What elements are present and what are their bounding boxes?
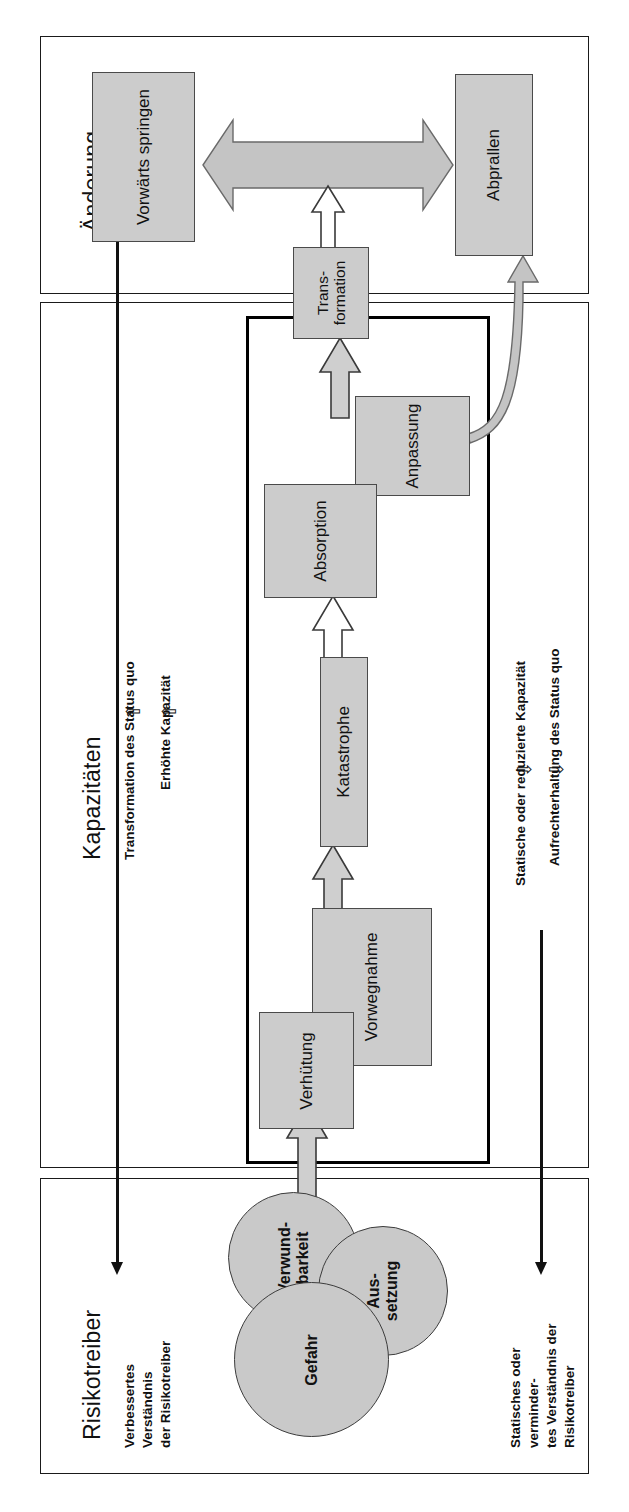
node-label-katastrophe: Katastrophe [334, 706, 353, 798]
label-statisches-verstaendnis-line2: verminder- [526, 1378, 542, 1448]
circle-label-verwundbarkeit-line2: barkeit [294, 1231, 311, 1283]
node-transformation[interactable]: Trans- formation [293, 247, 369, 339]
node-label-transformation-line1: Trans- [314, 271, 331, 315]
node-verhuetung[interactable]: Verhütung [259, 1012, 354, 1129]
node-label-transformation: Trans- formation [314, 261, 349, 326]
improving-axis-arrowhead [111, 1262, 123, 1275]
label-verbessertes-verstaendnis-line3: der Risikotreiber [158, 1341, 174, 1448]
node-abprallen[interactable]: Abprallen [455, 74, 533, 256]
label-statisches-verstaendnis-line3: tes Verständnis der [544, 1323, 560, 1448]
node-anpassung[interactable]: Anpassung [355, 396, 470, 496]
node-label-vorwaerts-springen: Vorwärts springen [134, 89, 153, 225]
label-transformation-status-quo: Transformation des Status quo [122, 661, 138, 860]
circle-label-gefahr: Gefahr [303, 1334, 321, 1386]
label-statisches-verstaendnis-line4: Risikotreiber [562, 1365, 578, 1448]
diagram-canvas: Änderung Kapazitäten Risikotreiber Trans… [0, 0, 629, 1512]
section-title-risikotreiber: Risikotreiber [79, 1310, 106, 1440]
static-axis-arrowhead [535, 1262, 547, 1275]
node-label-anpassung: Anpassung [403, 403, 422, 488]
node-label-vorwegnahme: Vorwegnahme [362, 933, 381, 1042]
circle-gefahr[interactable]: Gefahr [234, 1282, 389, 1437]
node-vorwaerts-springen[interactable]: Vorwärts springen [92, 72, 195, 242]
circle-label-verwundbarkeit-line1: Verwund- [276, 1221, 293, 1293]
improving-axis-line [116, 240, 119, 1264]
label-verbessertes-verstaendnis-line1: Verbessertes [122, 1364, 138, 1448]
down-arrow-glyph-aufrechterhaltung: ⇩ [547, 762, 566, 778]
label-statisches-verstaendnis-line1: Statisches oder [508, 1347, 524, 1448]
node-label-absorption: Absorption [311, 500, 330, 581]
node-absorption[interactable]: Absorption [264, 484, 377, 598]
static-axis-line [540, 930, 543, 1264]
node-label-abprallen: Abprallen [484, 129, 503, 201]
up-arrow-glyph-transformation: ⇧ [124, 704, 143, 720]
label-verbessertes-verstaendnis-line2: Verständnis [140, 1371, 156, 1448]
label-erhoehte-kapazitaet: Erhöhte Kapazität [158, 675, 174, 790]
node-label-verhuetung: Verhütung [297, 1032, 316, 1110]
label-aufrechterhaltung-status-quo: Aufrechterhaltung des Status quo [547, 648, 563, 866]
up-arrow-glyph-kapazitaet: ⇧ [160, 704, 179, 720]
down-arrow-glyph-statisch: ⇩ [515, 762, 534, 778]
circle-label-aussetzung-line1: Aus- [365, 1273, 382, 1309]
circle-label-aussetzung-line2: setzung [383, 1261, 400, 1321]
node-label-transformation-line2: formation [331, 261, 348, 326]
section-title-kapazitaeten: Kapazitäten [79, 736, 106, 860]
node-katastrophe[interactable]: Katastrophe [320, 657, 368, 847]
